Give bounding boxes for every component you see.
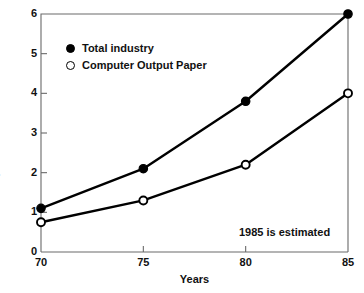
y-tick-label: 2 (21, 167, 37, 178)
axis-ticks (41, 54, 246, 252)
x-tick-label: 70 (26, 256, 56, 268)
data-point (139, 165, 147, 173)
data-point (37, 218, 45, 226)
data-point (241, 97, 249, 105)
chart-figure: $ In Billions 0123456 70758085 Years Tot… (0, 0, 364, 293)
data-point (139, 196, 147, 204)
series-2 (37, 89, 352, 226)
x-tick-label: 75 (128, 256, 158, 268)
y-axis-tick-labels: 0123456 (19, 0, 37, 293)
filled-circle-icon (66, 44, 75, 53)
estimate-annotation: 1985 is estimated (239, 226, 330, 238)
chart-legend: Total industryComputer Output Paper (66, 42, 207, 71)
legend-item-label: Computer Output Paper (82, 59, 207, 71)
y-tick-label: 1 (21, 206, 37, 217)
y-tick-label: 5 (21, 48, 37, 59)
legend-item: Total industry (66, 42, 207, 54)
y-tick-label: 4 (21, 87, 37, 98)
x-axis-label: Years (41, 273, 348, 285)
x-tick-label: 85 (333, 256, 363, 268)
x-tick-label: 80 (231, 256, 261, 268)
data-point (344, 89, 352, 97)
data-point (242, 161, 250, 169)
y-tick-label: 3 (21, 127, 37, 138)
open-circle-icon (66, 61, 75, 70)
legend-item: Computer Output Paper (66, 59, 207, 71)
data-point (37, 204, 45, 212)
y-tick-label: 6 (21, 8, 37, 19)
data-point (344, 10, 352, 18)
legend-item-label: Total industry (82, 42, 154, 54)
